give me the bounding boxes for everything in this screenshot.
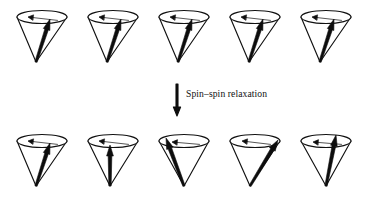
down-arrow-icon xyxy=(173,84,180,116)
cone-rim-ellipse xyxy=(159,11,209,24)
cone-top-cone-2 xyxy=(88,11,138,63)
cone-top-cone-5 xyxy=(301,11,351,63)
cone-bottom-cone-1 xyxy=(17,135,67,187)
cone-rim-ellipse xyxy=(17,11,67,24)
cone-rim-ellipse xyxy=(301,11,351,24)
cone-bottom-cone-4 xyxy=(230,135,280,187)
figure-root: Spin–spin relaxation xyxy=(0,0,378,200)
cone-rim-ellipse xyxy=(230,11,280,24)
cone-top-cone-4 xyxy=(230,11,280,63)
in-phase-spins-row xyxy=(17,11,351,63)
cone-rim-ellipse xyxy=(88,135,138,148)
cone-bottom-cone-5 xyxy=(301,135,351,187)
spin-relaxation-diagram: Spin–spin relaxation xyxy=(0,0,378,200)
transition-label: Spin–spin relaxation xyxy=(186,88,267,99)
cone-rim-ellipse xyxy=(301,135,351,148)
transition-indicator: Spin–spin relaxation xyxy=(173,84,267,116)
cone-rim-ellipse xyxy=(88,11,138,24)
cone-rim-ellipse xyxy=(17,135,67,148)
cone-top-cone-3 xyxy=(159,11,209,63)
dephased-spins-row xyxy=(17,135,351,187)
cone-bottom-cone-2 xyxy=(88,135,138,187)
cone-bottom-cone-3 xyxy=(159,135,209,187)
cone-top-cone-1 xyxy=(17,11,67,63)
